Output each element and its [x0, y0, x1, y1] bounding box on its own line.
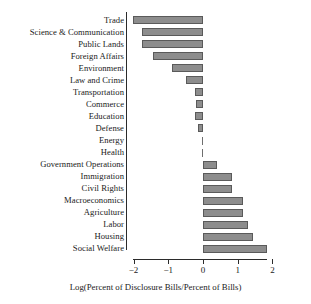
bar-row: Government Operations: [0, 158, 311, 171]
bar: [203, 197, 243, 205]
bar: [203, 185, 232, 193]
bar-row: Public Lands: [0, 38, 311, 51]
bar-row: Energy: [0, 134, 311, 147]
category-label: Defense: [0, 122, 124, 135]
bar: [203, 209, 243, 217]
bar: [195, 112, 203, 120]
bar: [203, 161, 217, 169]
category-label: Health: [0, 146, 124, 159]
category-label: Trade: [0, 14, 124, 27]
bar-row: Defense: [0, 122, 311, 135]
category-label: Science & Communication: [0, 26, 124, 39]
category-label: Civil Rights: [0, 182, 124, 195]
bar: [203, 173, 232, 181]
bar: [153, 52, 203, 60]
category-label: Social Welfare: [0, 242, 124, 255]
x-tick-label: 2: [260, 264, 284, 276]
bar: [186, 76, 203, 84]
bar: [198, 124, 203, 132]
bar-row: Education: [0, 110, 311, 123]
category-label: Public Lands: [0, 38, 124, 51]
bar-row: Commerce: [0, 98, 311, 111]
category-label: Law and Crime: [0, 74, 124, 87]
bar-row: Law and Crime: [0, 74, 311, 87]
x-tick-label: −1: [156, 264, 180, 276]
x-tick-label: 0: [191, 264, 215, 276]
category-label: Macroeconomics: [0, 194, 124, 207]
bar-chart-figure: TradeScience & CommunicationPublic Lands…: [0, 0, 311, 304]
category-label: Commerce: [0, 98, 124, 111]
bar: [142, 28, 203, 36]
category-label: Education: [0, 110, 124, 123]
bar-row: Health: [0, 146, 311, 159]
value-axis-line: [133, 259, 267, 260]
x-tick-label: −2: [122, 264, 146, 276]
bar: [142, 40, 203, 48]
bar-row: Civil Rights: [0, 182, 311, 195]
bar: [195, 88, 203, 96]
category-label: Foreign Affairs: [0, 50, 124, 63]
category-label: Transportation: [0, 86, 124, 99]
x-axis-title: Log(Percent of Disclosure Bills/Percent …: [0, 281, 311, 293]
bar-row: Science & Communication: [0, 26, 311, 39]
bar: [133, 16, 203, 24]
bar-row: Social Welfare: [0, 242, 311, 255]
category-label: Agriculture: [0, 206, 124, 219]
bar: [196, 100, 203, 108]
plot-area: TradeScience & CommunicationPublic Lands…: [0, 0, 311, 304]
bar-row: Transportation: [0, 86, 311, 99]
bar-row: Trade: [0, 14, 311, 27]
category-label: Housing: [0, 230, 124, 243]
bar: [203, 233, 253, 241]
bar-row: Housing: [0, 230, 311, 243]
bar: [203, 221, 248, 229]
bar-row: Labor: [0, 218, 311, 231]
bar-row: Immigration: [0, 170, 311, 183]
bar-row: Agriculture: [0, 206, 311, 219]
bar-row: Foreign Affairs: [0, 50, 311, 63]
category-label: Environment: [0, 62, 124, 75]
bar-row: Macroeconomics: [0, 194, 311, 207]
category-label: Government Operations: [0, 158, 124, 171]
bar-row: Environment: [0, 62, 311, 75]
x-tick-label: 1: [226, 264, 250, 276]
category-label: Immigration: [0, 170, 124, 183]
bar: [202, 137, 204, 145]
category-label: Energy: [0, 134, 124, 147]
bar: [203, 245, 267, 253]
bar: [202, 149, 204, 157]
bar: [172, 64, 203, 72]
category-label: Labor: [0, 218, 124, 231]
